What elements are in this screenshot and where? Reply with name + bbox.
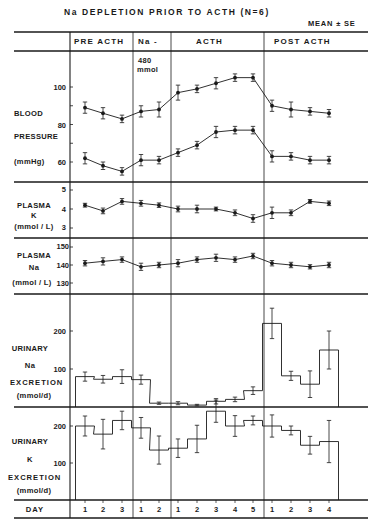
data-point: [120, 117, 124, 121]
data-point: [289, 263, 293, 267]
data-point: [270, 104, 274, 108]
data-point: [101, 164, 105, 168]
data-point: [214, 207, 218, 211]
data-point: [308, 200, 312, 204]
data-point: [327, 158, 331, 162]
data-line: [85, 78, 329, 119]
data-point: [233, 76, 237, 80]
data-point: [251, 254, 255, 258]
data-point: [327, 263, 331, 267]
data-point: [270, 261, 274, 265]
data-point: [176, 207, 180, 211]
data-point: [308, 158, 312, 162]
data-point: [214, 256, 218, 260]
data-point: [101, 111, 105, 115]
data-point: [327, 111, 331, 115]
data-point: [120, 169, 124, 173]
data-point: [195, 87, 199, 91]
data-point: [270, 211, 274, 215]
data-point: [83, 203, 87, 207]
data-point: [157, 108, 161, 112]
data-point: [308, 109, 312, 113]
data-point: [176, 261, 180, 265]
data-point: [251, 217, 255, 221]
data-point: [214, 81, 218, 85]
data-point: [308, 265, 312, 269]
data-point: [195, 207, 199, 211]
data-point: [101, 209, 105, 213]
data-line: [85, 130, 329, 171]
data-point: [289, 108, 293, 112]
data-point: [83, 156, 87, 160]
data-point: [139, 265, 143, 269]
data-point: [139, 201, 143, 205]
histogram-outline: [76, 323, 339, 407]
data-point: [195, 143, 199, 147]
data-point: [327, 201, 331, 205]
data-point: [176, 91, 180, 95]
data-point: [233, 128, 237, 132]
histogram-outline: [76, 411, 339, 500]
data-point: [101, 260, 105, 264]
data-point: [233, 211, 237, 215]
data-point: [176, 151, 180, 155]
data-point: [83, 261, 87, 265]
data-point: [120, 200, 124, 204]
data-point: [251, 128, 255, 132]
data-point: [157, 263, 161, 267]
data-point: [233, 258, 237, 262]
data-point: [139, 158, 143, 162]
data-point: [120, 258, 124, 262]
data-point: [214, 130, 218, 134]
chart-canvas: [0, 0, 378, 530]
data-point: [195, 258, 199, 262]
data-point: [289, 154, 293, 158]
data-point: [270, 154, 274, 158]
data-point: [157, 203, 161, 207]
data-point: [251, 76, 255, 80]
data-point: [289, 211, 293, 215]
data-point: [139, 109, 143, 113]
data-point: [157, 158, 161, 162]
data-point: [83, 106, 87, 110]
